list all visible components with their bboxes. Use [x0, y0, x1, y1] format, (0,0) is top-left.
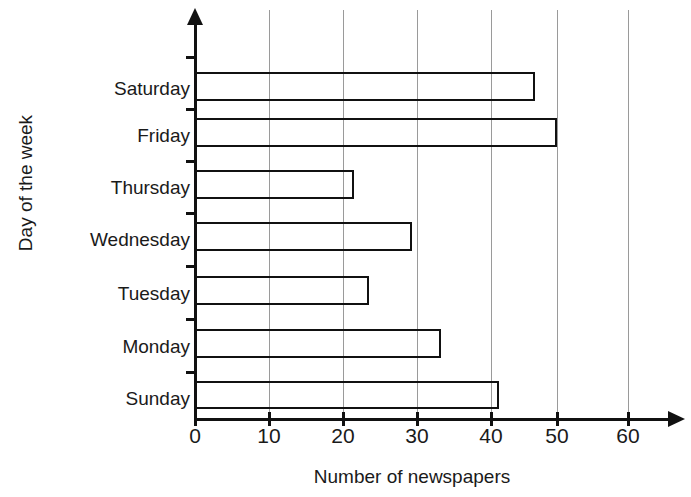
- gridline: [628, 10, 629, 419]
- x-tick-label-10: 10: [239, 425, 299, 446]
- bar-saturday: [195, 72, 535, 101]
- gridline: [557, 10, 558, 419]
- bar-thursday: [195, 170, 354, 199]
- category-label-sunday: Sunday: [0, 389, 190, 408]
- bar-friday: [195, 118, 557, 147]
- bar-monday: [195, 329, 441, 358]
- x-tick-label-40: 40: [461, 425, 521, 446]
- bar-chart: 0 10 20 30 40 50 60 Saturday Friday Thur…: [0, 0, 691, 497]
- category-label-tuesday: Tuesday: [0, 284, 190, 303]
- y-axis-title: Day of the week: [15, 83, 37, 283]
- x-tick-label-0: 0: [165, 425, 225, 446]
- bar-sunday: [195, 381, 499, 409]
- x-tick-label-60: 60: [598, 425, 658, 446]
- x-axis-title: Number of newspapers: [195, 466, 629, 488]
- x-tick-label-50: 50: [527, 425, 587, 446]
- bar-wednesday: [195, 222, 412, 251]
- category-label-monday: Monday: [0, 337, 190, 356]
- bar-tuesday: [195, 276, 369, 305]
- y-axis-line: [194, 22, 197, 420]
- x-axis-arrow-icon: [668, 411, 685, 427]
- x-tick-label-20: 20: [313, 425, 373, 446]
- x-tick-label-30: 30: [387, 425, 447, 446]
- y-axis-arrow-icon: [187, 8, 203, 25]
- x-axis-line: [195, 418, 674, 421]
